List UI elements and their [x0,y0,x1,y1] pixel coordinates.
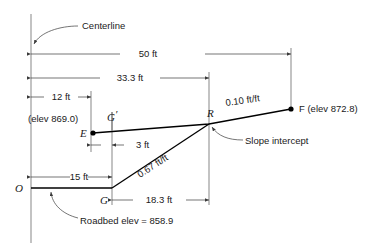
dim-15ft-label: 15 ft [70,171,89,182]
point-E-dot [90,130,95,135]
slope-0-67-label: 0.67 ft/ft [135,152,170,180]
roadbed-elev-label: Roadbed elev = 858.9 [80,215,173,226]
elev-872-8-label: F (elev 872.8) [299,103,358,114]
centerline-leader [34,26,78,44]
slope-0-10-label: 0.10 ft/ft [225,92,261,108]
dim-50ft-label: 50 ft [139,48,158,59]
engineering-diagram: Centerline 50 ft 33.3 ft 12 ft 15 ft 3 f… [0,0,383,251]
slope-intercept-leader [212,127,243,140]
point-G-prime-label: G [107,111,115,123]
elev-869-label: (elev 869.0) [28,113,78,124]
dim-12ft-label: 12 ft [52,91,71,102]
point-E-label: E [79,127,87,139]
point-R-label: R [206,107,214,119]
point-O-label: O [15,182,23,194]
dim-3ft-label: 3 ft [136,139,150,150]
roadbed-elev-leader [51,192,78,218]
dim-18-3ft-label: 18.3 ft [146,194,173,205]
centerline-label: Centerline [82,20,125,31]
slope-intercept-label: Slope intercept [245,135,309,146]
point-G-prime-mark: ′ [115,108,118,120]
dim-33-3ft-label: 33.3 ft [117,72,144,83]
diagram-canvas: Centerline 50 ft 33.3 ft 12 ft 15 ft 3 f… [0,0,383,251]
point-F-dot [288,106,293,111]
point-G-label: G [100,194,108,206]
ground-slope-line [93,109,291,133]
